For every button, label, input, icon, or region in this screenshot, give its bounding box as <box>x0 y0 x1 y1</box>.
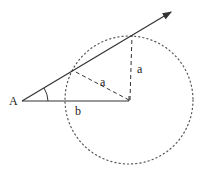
label-base-b: b <box>75 104 81 118</box>
diagram-canvas: A a a b <box>0 0 206 178</box>
label-vert-a: a <box>137 62 143 76</box>
angle-arc-A <box>44 88 48 101</box>
label-hyp-a: a <box>100 75 106 89</box>
label-point-A: A <box>9 94 18 108</box>
ray-from-A <box>22 12 171 101</box>
dashed-radius-far <box>130 35 132 100</box>
